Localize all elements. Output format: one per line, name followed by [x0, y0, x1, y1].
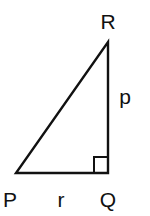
- triangle-diagram: R p P r Q: [0, 0, 150, 216]
- vertex-label-r: R: [100, 10, 115, 33]
- triangle-pqr: [16, 42, 108, 173]
- side-label-p: p: [119, 85, 131, 108]
- vertex-label-p: P: [3, 188, 17, 211]
- side-label-r: r: [58, 188, 65, 211]
- right-angle-marker: [94, 157, 108, 173]
- vertex-label-q: Q: [100, 188, 116, 211]
